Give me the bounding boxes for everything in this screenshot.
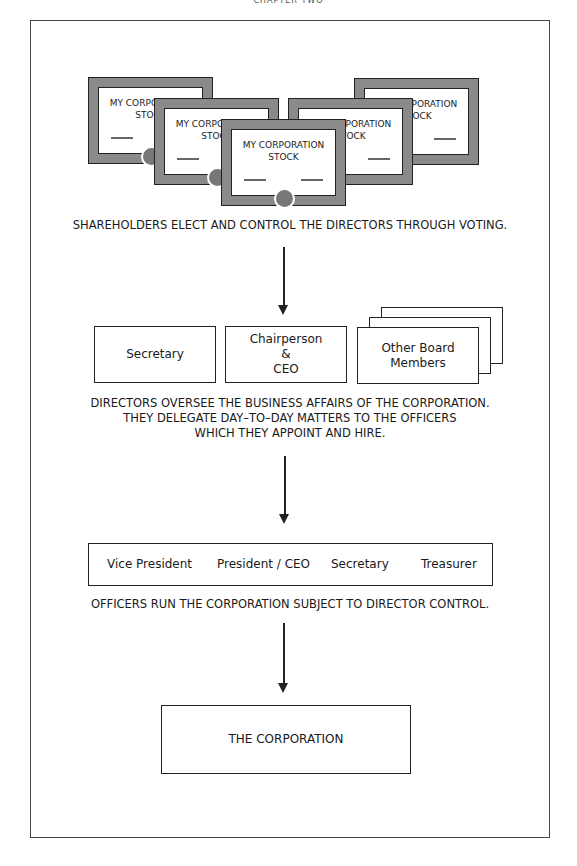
signature-line (111, 137, 133, 139)
directors-caption: DIRECTORS OVERSEE THE BUSINESS AFFAIRS O… (30, 396, 550, 441)
officer-vice-president: Vice President (107, 557, 192, 571)
stock-certificate-front: MY CORPORATION STOCK (221, 119, 346, 206)
officers-box: Vice President President / CEO Secretary… (88, 543, 493, 586)
officers-caption: OFFICERS RUN THE CORPORATION SUBJECT TO … (30, 597, 550, 612)
signature-line (177, 158, 199, 160)
officer-president-ceo: President / CEO (217, 557, 310, 571)
officer-treasurer: Treasurer (421, 557, 477, 571)
certificate-inner: MY CORPORATION STOCK (231, 129, 336, 196)
certificate-title: MY CORPORATION STOCK (232, 139, 335, 163)
signature-line (244, 179, 266, 181)
chapter-header: CHAPTER TWO (0, 0, 577, 5)
signature-line (301, 179, 323, 181)
director-box-chairperson-ceo: Chairperson & CEO (225, 326, 347, 383)
officer-secretary: Secretary (331, 557, 389, 571)
seal-icon (274, 188, 295, 209)
corporation-box: THE CORPORATION (161, 705, 411, 774)
signature-line (368, 158, 390, 160)
shareholders-caption: SHAREHOLDERS ELECT AND CONTROL THE DIREC… (30, 218, 550, 233)
director-box-secretary: Secretary (94, 326, 216, 383)
signature-line (434, 138, 456, 140)
director-box-other-members: Other Board Members (357, 327, 479, 384)
